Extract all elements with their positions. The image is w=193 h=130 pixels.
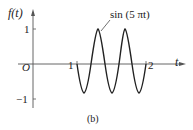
x-axis-arrow-icon bbox=[179, 62, 186, 66]
x-tick-label-2: 2 bbox=[148, 59, 154, 71]
figure-caption: (b) bbox=[87, 113, 99, 125]
y-axis-arrow-icon bbox=[31, 9, 35, 16]
annotation-leader bbox=[101, 20, 110, 31]
y-tick-label-1: 1 bbox=[24, 23, 30, 35]
y-axis-label: f(t) bbox=[8, 6, 23, 20]
origin-label: O bbox=[22, 61, 30, 73]
x-tick-label-1: 1 bbox=[68, 59, 74, 71]
y-tick-label-neg1: −1 bbox=[16, 93, 28, 105]
sine-curve bbox=[77, 29, 146, 93]
signal-plot: f(t) 1 −1 O 1 2 t sin (5 πt) (b) bbox=[0, 0, 193, 130]
x-axis-label: t bbox=[175, 55, 179, 69]
curve-annotation: sin (5 πt) bbox=[110, 8, 150, 21]
